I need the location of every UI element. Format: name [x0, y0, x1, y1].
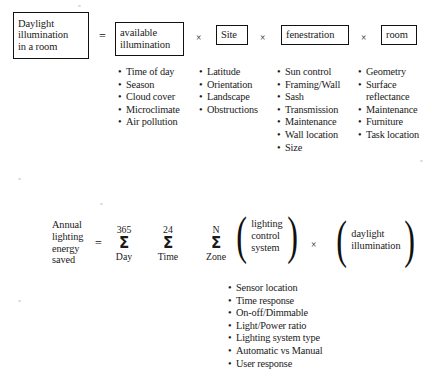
scan-artifact [420, 160, 423, 162]
bullet-list-room: •Geometry •Surface reflectance •Maintena… [358, 66, 419, 142]
bullet-icon: • [228, 358, 231, 371]
list-item: •Air pollution [118, 116, 180, 129]
box-available-illumination: available illumination [115, 22, 184, 56]
list-item-label: Transmission [285, 104, 338, 115]
list-item-label: Landscape [207, 91, 250, 102]
bullet-icon: • [277, 79, 280, 92]
list-item: •Wall location [277, 129, 340, 142]
times-operator-2: × [260, 33, 265, 44]
bullet-icon: • [277, 142, 280, 155]
list-item: •Lighting system type [228, 332, 322, 345]
list-item-label: reflectance [366, 91, 410, 102]
box-room: room [381, 25, 417, 45]
list-item-label: Microclimate [126, 104, 180, 115]
box-site: Site [216, 25, 248, 45]
summation-day: 365 Σ Day [104, 224, 144, 262]
list-item: •Maintenance [358, 104, 419, 117]
bullet-icon: • [277, 116, 280, 129]
list-item-label: Furniture [366, 116, 403, 127]
list-item: •Surface [358, 79, 419, 92]
paren-right-icon: ) [405, 220, 416, 260]
list-item-label: Cloud cover [126, 91, 175, 102]
list-item: •Sash [277, 91, 340, 104]
scan-artifact [18, 178, 21, 180]
bullet-icon: • [199, 104, 202, 117]
bullet-icon: • [199, 91, 202, 104]
bullet-icon: • [228, 282, 231, 295]
bullet-list-site: •Latitude •Orientation •Landscape •Obstr… [199, 66, 258, 116]
scan-artifact [100, 203, 103, 205]
box-line: Daylight [18, 18, 84, 30]
list-item-label: Light/Power ratio [236, 320, 306, 331]
bullet-icon: • [228, 320, 231, 333]
list-item: •Sun control [277, 66, 340, 79]
bullet-icon: • [118, 79, 121, 92]
list-item-label: Latitude [207, 66, 240, 77]
list-item: •Time response [228, 295, 322, 308]
list-item-label: Wall location [285, 129, 338, 140]
paren-left-icon: ( [236, 216, 247, 256]
bullet-icon: • [118, 66, 121, 79]
bullet-icon: • [277, 66, 280, 79]
list-item: •Cloud cover [118, 91, 180, 104]
list-item-label: Task location [366, 129, 419, 140]
list-item-label: Time response [236, 295, 294, 306]
summation-time: 24 Σ Time [148, 224, 188, 262]
bullet-icon: • [358, 116, 361, 129]
box-line: Site [221, 29, 243, 41]
list-item-label: Orientation [207, 79, 252, 90]
bullet-icon: • [228, 332, 231, 345]
sigma-icon: Σ [104, 235, 144, 251]
equals-operator-top: = [99, 31, 106, 42]
bullet-icon: • [118, 116, 121, 129]
box-line: fenestration [286, 29, 344, 41]
times-operator-1: × [196, 33, 201, 44]
list-item: •Time of day [118, 66, 180, 79]
bullet-icon: • [358, 79, 361, 92]
list-item: •On-off/Dimmable [228, 307, 322, 320]
paren-left-icon: ( [336, 220, 347, 260]
list-item-label: Sash [285, 91, 304, 102]
list-item: •Furniture [358, 116, 419, 129]
sigma-icon: Σ [148, 235, 188, 251]
group-content: daylight illumination [350, 228, 401, 252]
bullet-list-available-illumination: •Time of day •Season •Cloud cover •Micro… [118, 66, 180, 129]
list-item-label: Automatic vs Manual [236, 345, 322, 356]
times-operator-4: × [311, 240, 316, 251]
bullet-icon: • [118, 104, 121, 117]
summation-lower-limit: Time [148, 251, 188, 262]
bullet-icon: • [277, 129, 280, 142]
list-item: •Season [118, 79, 180, 92]
list-item-label: Sun control [285, 66, 331, 77]
bullet-icon: • [199, 79, 202, 92]
bullet-icon: • [358, 66, 361, 79]
list-item: •Task location [358, 129, 419, 142]
sigma-icon: Σ [196, 235, 236, 251]
equals-operator-bottom: = [95, 238, 102, 249]
group-content: lighting control system [250, 218, 283, 253]
list-item-label: Maintenance [285, 116, 337, 127]
summation-lower-limit: Day [104, 251, 144, 262]
bullet-list-fenestration: •Sun control •Framing/Wall •Sash •Transm… [277, 66, 340, 154]
group-lighting-control-system: ( lighting control system ) [233, 216, 301, 256]
bullet-icon: • [228, 295, 231, 308]
box-line: illumination [18, 29, 84, 41]
scan-artifact [78, 5, 81, 7]
box-line: room [386, 29, 412, 41]
group-line: system [251, 242, 282, 254]
bullet-icon: • [228, 345, 231, 358]
list-item: •Framing/Wall [277, 79, 340, 92]
list-item-label: Lighting system type [236, 332, 320, 343]
lhs-line: lighting [52, 231, 83, 243]
list-item-label: Obstructions [207, 104, 258, 115]
box-line: available [120, 27, 179, 39]
annual-lighting-energy-saved-label: Annual lighting energy saved [52, 219, 83, 266]
bullet-list-lighting-control-system: •Sensor location •Time response •On-off/… [228, 282, 322, 370]
list-item-label: Air pollution [126, 116, 178, 127]
list-item: •Maintenance [277, 116, 340, 129]
box-daylight-illumination-in-a-room: Daylight illumination in a room [13, 12, 89, 59]
list-item: •Light/Power ratio [228, 320, 322, 333]
diagram-canvas: Daylight illumination in a room = availa… [0, 0, 443, 377]
bullet-icon: • [277, 104, 280, 117]
box-line: illumination [120, 39, 179, 51]
